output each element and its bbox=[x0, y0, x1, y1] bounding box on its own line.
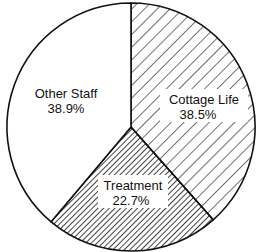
cottage-life-label: Cottage Life bbox=[169, 92, 239, 107]
treatment-label: Treatment bbox=[104, 178, 163, 193]
slice-label-cottage-life: Cottage Life 38.5% bbox=[160, 89, 248, 122]
other-staff-value: 38.9% bbox=[48, 101, 85, 116]
treatment-value: 22.7% bbox=[113, 193, 150, 208]
pie-chart: Other Staff 38.9% Cottage Life 38.5% Tre… bbox=[0, 0, 259, 252]
other-staff-label: Other Staff bbox=[35, 86, 98, 101]
cottage-life-value: 38.5% bbox=[180, 107, 217, 122]
pie-slices bbox=[7, 3, 255, 251]
slice-label-treatment: Treatment 22.7% bbox=[98, 175, 168, 208]
